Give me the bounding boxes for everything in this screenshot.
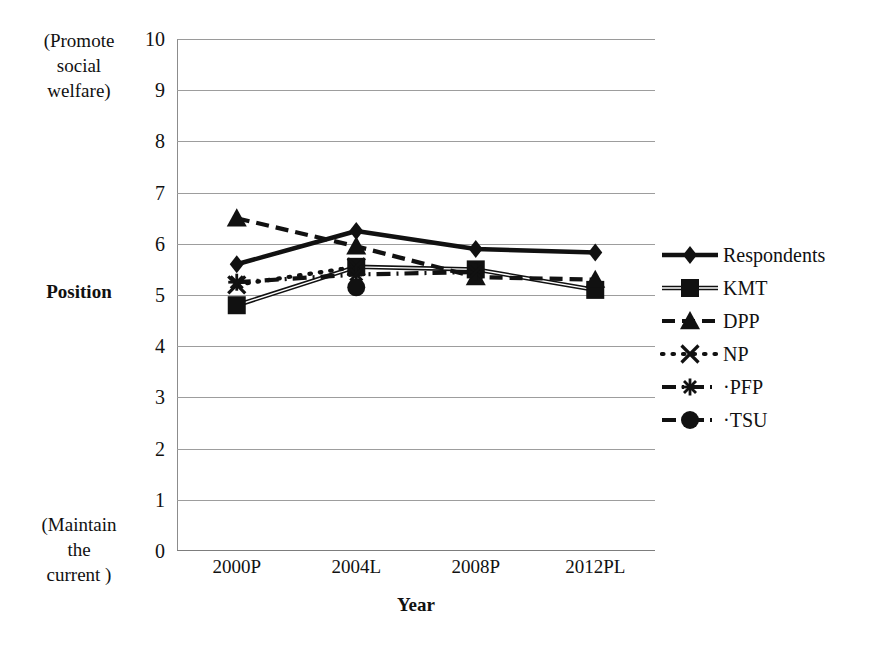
y-axis-title: Position (20, 281, 138, 303)
series-line-np (237, 267, 357, 285)
y-tick-label-7: 7 (129, 183, 165, 203)
x-tick-label-2004L: 2004L (296, 556, 416, 578)
x-axis-title: Year (177, 594, 655, 616)
y-axis-bottom-note-line-3: current ) (20, 562, 138, 587)
legend-marker-diamond-icon (660, 244, 720, 266)
legend-marker-square-icon (660, 277, 720, 299)
y-tick-label-9: 9 (129, 80, 165, 100)
y-tick-label-4: 4 (129, 336, 165, 356)
x-tick-label-2000P: 2000P (177, 556, 297, 578)
x-tick-label-2008P: 2008P (416, 556, 536, 578)
x-tick-label-2012PL: 2012PL (535, 556, 655, 578)
legend-label: Respondents (720, 244, 825, 266)
y-axis-top-note-line-1: (Promote (20, 28, 138, 53)
y-tick-label-3: 3 (129, 387, 165, 407)
y-axis-top-note: (Promote social welfare) (20, 28, 138, 103)
legend-marker-triangle-icon (660, 310, 720, 332)
series-dpp (227, 208, 606, 288)
legend-item-kmt[interactable]: KMT (660, 271, 860, 304)
legend-marker-circle-icon (660, 409, 720, 431)
series-kmt (228, 258, 605, 314)
series-tsu (347, 278, 365, 296)
y-tick-label-10: 10 (129, 29, 165, 49)
legend-label: ·TSU (720, 409, 767, 431)
legend-label: ·PFP (720, 376, 763, 398)
y-tick-label-1: 1 (129, 490, 165, 510)
y-axis-top-note-line-3: welfare) (20, 78, 138, 103)
y-tick-label-0: 0 (129, 541, 165, 561)
chart-figure: (Promote social welfare) Position (Maint… (0, 0, 869, 646)
legend-label: KMT (720, 277, 767, 299)
y-tick-label-6: 6 (129, 234, 165, 254)
legend-label: DPP (720, 310, 760, 332)
y-axis-bottom-note-line-2: the (20, 537, 138, 562)
y-axis-bottom-note: (Maintain the current ) (20, 512, 138, 587)
y-tick-label-2: 2 (129, 439, 165, 459)
y-tick-label-8: 8 (129, 131, 165, 151)
legend-item-respondents[interactable]: Respondents (660, 238, 860, 271)
y-axis-bottom-note-line-1: (Maintain (20, 512, 138, 537)
y-tick-label-5: 5 (129, 285, 165, 305)
chart-legend: RespondentsKMTDPPNP·PFP·TSU (660, 238, 860, 436)
legend-item-pfp[interactable]: ·PFP (660, 370, 860, 403)
legend-label: NP (720, 343, 749, 365)
legend-item-tsu[interactable]: ·TSU (660, 403, 860, 436)
plot-area (177, 39, 655, 551)
legend-item-dpp[interactable]: DPP (660, 304, 860, 337)
series-line-respondents (237, 231, 596, 264)
legend-item-np[interactable]: NP (660, 337, 860, 370)
legend-marker-x-icon (660, 343, 720, 365)
legend-marker-asterisk-icon (660, 376, 720, 398)
series-plot (177, 39, 655, 551)
y-axis-top-note-line-2: social (20, 53, 138, 78)
